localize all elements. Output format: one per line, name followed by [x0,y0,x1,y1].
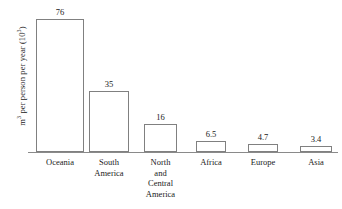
category-label-line: Central [135,178,186,189]
bar-rect [36,19,84,152]
bar-value-label: 6.5 [196,130,226,139]
bar-value-label: 16 [144,113,177,122]
category-label-line: and [135,168,186,179]
x-axis-category-label: Europe [239,157,287,168]
x-axis-category-label: Africa [187,157,235,168]
bar-north-and-central-america: 16 [144,0,177,152]
x-axis-baseline [28,152,338,153]
bar-south-america: 35 [89,0,129,152]
x-axis-category-label: NorthandCentralAmerica [135,157,186,199]
bar-asia: 3.4 [300,0,332,152]
category-label-line: North [135,157,186,168]
category-label-line: Europe [239,157,287,168]
y-axis-unit-exponent: 3 [16,116,22,119]
bar-rect [89,91,129,152]
bar-africa: 6.5 [196,0,226,152]
y-axis-middle-text: per person per year (10 [17,32,27,115]
bar-oceania: 76 [36,0,84,152]
bar-value-label: 35 [89,80,129,89]
bar-value-label: 4.7 [248,133,278,142]
y-axis-unit: m [17,119,27,126]
x-axis-category-label: SouthAmerica [80,157,138,178]
bar-europe: 4.7 [248,0,278,152]
plot-area: 7635166.54.73.4 [28,0,338,152]
bar-chart: m3 per person per year (103) 7635166.54.… [0,0,342,209]
category-label-line: Africa [187,157,235,168]
category-label-line: Asia [291,157,341,168]
bar-rect [196,141,226,152]
y-axis-close-paren: ) [17,26,27,29]
y-axis-scale-exponent: 3 [16,29,22,32]
category-label-line: America [80,168,138,179]
bar-value-label: 3.4 [300,135,332,144]
bar-rect [248,144,278,152]
x-axis-category-label: Asia [291,157,341,168]
category-label-line: America [135,189,186,200]
bar-value-label: 76 [36,8,84,17]
y-axis-title-text: m3 per person per year (103) [18,26,27,125]
bar-rect [144,124,177,152]
category-label-line: South [80,157,138,168]
